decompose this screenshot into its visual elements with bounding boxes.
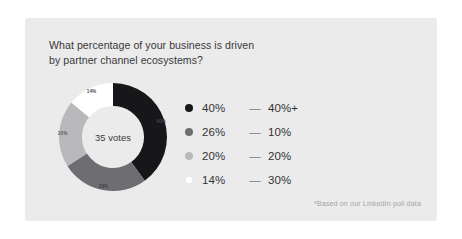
donut-slice: [113, 83, 167, 181]
legend-item: 40% — 40%+: [185, 96, 385, 120]
legend-percent: 20%: [202, 150, 242, 162]
donut-slice-label: 26%: [99, 184, 109, 189]
poll-result-graphic: What percentage of your business is driv…: [0, 0, 462, 239]
legend-item: 26% — 10%: [185, 120, 385, 144]
legend-item: 14% — 30%: [185, 168, 385, 192]
legend-separator: —: [242, 126, 268, 138]
legend-item: 20% — 20%: [185, 144, 385, 168]
legend-separator: —: [242, 174, 268, 186]
legend-swatch-icon: [185, 104, 193, 112]
page-title: What percentage of your business is driv…: [49, 38, 379, 68]
donut-slice-label: 20%: [58, 131, 67, 136]
legend-value: 40%+: [268, 102, 298, 114]
legend-swatch-icon: [185, 152, 193, 160]
legend-value: 30%: [268, 174, 291, 186]
legend-separator: —: [242, 102, 268, 114]
legend-percent: 40%: [202, 102, 242, 114]
poll-card: What percentage of your business is driv…: [25, 18, 437, 221]
legend-value: 10%: [268, 126, 291, 138]
donut-chart-svg: 40%26%20%14%: [58, 82, 168, 192]
legend-swatch-icon: [185, 128, 193, 136]
donut-slice-label: 40%: [156, 119, 166, 124]
legend-separator: —: [242, 150, 268, 162]
legend-value: 20%: [268, 150, 291, 162]
legend-percent: 14%: [202, 174, 242, 186]
donut-chart: 40%26%20%14% 35 votes: [58, 82, 168, 192]
chart-legend: 40% — 40%+ 26% — 10% 20% — 20% 14% — 30%: [185, 96, 385, 192]
donut-slice-label: 14%: [87, 89, 97, 94]
legend-swatch-icon: [185, 176, 193, 184]
footnote: *Based on our LinkedIn poll data: [314, 199, 421, 208]
legend-percent: 26%: [202, 126, 242, 138]
